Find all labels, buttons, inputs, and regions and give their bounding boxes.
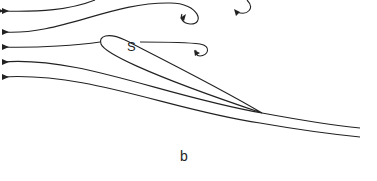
streamline-2 (2, 3, 198, 32)
panel-label: b (180, 148, 188, 164)
streamline-4 (2, 61, 360, 128)
vortex-arrow-1 (180, 14, 186, 21)
streamline-diagram (0, 0, 377, 181)
streamline-3 (2, 42, 100, 47)
airfoil (100, 36, 262, 113)
streamline-1 (2, 0, 95, 11)
vortex-3 (237, 0, 250, 13)
streamline-5 (2, 77, 360, 137)
vortex-arrow-3 (234, 9, 240, 16)
inflow-arrows (2, 8, 9, 80)
airfoil-label: S (127, 39, 136, 54)
